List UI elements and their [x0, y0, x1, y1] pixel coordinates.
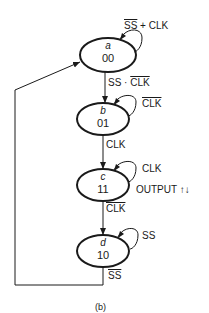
state-d-code: 10: [75, 249, 131, 261]
self-loop-a-label: SS + CLK: [124, 20, 168, 31]
state-c-code: 11: [75, 183, 131, 195]
state-c-output: OUTPUT ↑↓: [136, 184, 190, 195]
state-d-name: d: [75, 237, 131, 248]
state-a-code: 00: [80, 52, 136, 64]
transition-b-c-label: CLK: [106, 139, 125, 150]
transition-d-a-label: SS: [108, 270, 121, 281]
state-b-code: 01: [75, 117, 131, 129]
transition-a-b-label: SS · CLK: [108, 77, 150, 88]
state-c-name: c: [75, 171, 131, 182]
self-loop-b-label: CLK: [142, 98, 161, 109]
transition-c-d-label: CLK: [106, 203, 125, 214]
state-a-name: a: [80, 40, 136, 51]
self-loop-d-label: SS: [142, 230, 155, 241]
figure-caption: (b): [95, 302, 106, 313]
self-loop-c-label: CLK: [142, 163, 161, 174]
state-b-name: b: [75, 105, 131, 116]
